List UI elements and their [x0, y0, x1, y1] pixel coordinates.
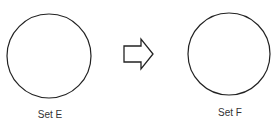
arrow-right-icon	[124, 39, 153, 69]
set-f-label: Set F	[200, 107, 260, 118]
set-e-circle	[7, 14, 91, 98]
set-f-circle	[188, 13, 270, 95]
set-e-label: Set E	[20, 109, 80, 120]
